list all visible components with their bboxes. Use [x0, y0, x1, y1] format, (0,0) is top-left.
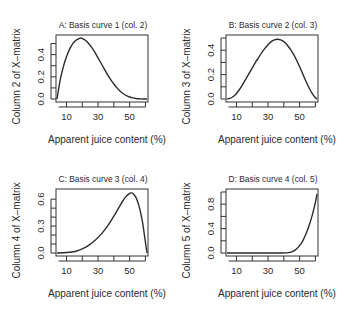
y-tick-label: 0.3	[35, 219, 46, 232]
y-tick-label: 0.2	[35, 70, 46, 83]
y-axis: 0.00.20.4	[205, 38, 226, 106]
y-tick-label: 0.0	[35, 92, 46, 105]
plot-frame	[56, 35, 148, 102]
basis-curve-line	[227, 194, 317, 253]
x-axis: 103050	[229, 256, 316, 276]
basis-curve-line	[57, 193, 147, 253]
panel-title: A: Basis curve 1 (col. 2)	[59, 20, 148, 30]
x-tick-label: 50	[294, 111, 305, 122]
y-axis-label: Column 3 of X–matrix	[181, 28, 192, 124]
y-tick-label: 0.0	[35, 246, 46, 259]
y-tick-label: 0.4	[205, 222, 216, 235]
y-axis: 0.00.20.4	[35, 44, 56, 106]
basis-curves-figure: A: Basis curve 1 (col. 2)1030500.00.20.4…	[0, 0, 343, 311]
panel-d: D: Basis curve 4 (col. 5)1030500.00.40.8…	[181, 174, 336, 299]
plot-frame	[226, 189, 318, 256]
panel-c: C: Basis curve 3 (col. 4)1030500.00.30.6…	[11, 174, 166, 299]
panel-title: B: Basis curve 2 (col. 3)	[229, 20, 318, 30]
y-tick-label: 0.0	[205, 246, 216, 259]
x-axis: 103050	[59, 102, 146, 122]
x-tick-label: 50	[124, 111, 135, 122]
x-tick-label: 10	[61, 111, 72, 122]
x-axis-label: Apparent juice content (%)	[48, 134, 166, 145]
plot-frame	[56, 189, 148, 256]
x-tick-label: 30	[93, 265, 104, 276]
x-tick-label: 30	[93, 111, 104, 122]
panel-title: C: Basis curve 3 (col. 4)	[59, 174, 148, 184]
y-axis-label: Column 5 of X–matrix	[181, 182, 192, 278]
x-axis: 103050	[229, 102, 316, 122]
y-tick-label: 0.8	[205, 198, 216, 211]
y-tick-label: 0.6	[35, 193, 46, 206]
y-tick-label: 0.0	[205, 92, 216, 105]
panel-b: B: Basis curve 2 (col. 3)1030500.00.20.4…	[181, 20, 336, 145]
x-tick-label: 10	[231, 111, 242, 122]
y-axis-label: Column 2 of X–matrix	[11, 28, 22, 124]
x-axis: 103050	[59, 256, 146, 276]
panel-a: A: Basis curve 1 (col. 2)1030500.00.20.4…	[11, 20, 166, 145]
x-tick-label: 10	[61, 265, 72, 276]
panel-title: D: Basis curve 4 (col. 5)	[229, 174, 318, 184]
y-tick-label: 0.2	[205, 68, 216, 81]
figure-canvas: A: Basis curve 1 (col. 2)1030500.00.20.4…	[0, 0, 343, 311]
y-tick-label: 0.4	[35, 48, 46, 61]
x-tick-label: 50	[124, 265, 135, 276]
x-axis-label: Apparent juice content (%)	[48, 288, 166, 299]
y-axis-label: Column 4 of X–matrix	[11, 182, 22, 278]
plot-frame	[226, 35, 318, 102]
x-tick-label: 50	[294, 265, 305, 276]
x-tick-label: 10	[231, 265, 242, 276]
y-axis: 0.00.30.6	[35, 193, 56, 260]
x-axis-label: Apparent juice content (%)	[218, 134, 336, 145]
basis-curve-line	[57, 38, 147, 99]
y-axis: 0.00.40.8	[205, 192, 226, 260]
basis-curve-line	[227, 39, 317, 99]
x-tick-label: 30	[263, 111, 274, 122]
x-tick-label: 30	[263, 265, 274, 276]
x-axis-label: Apparent juice content (%)	[218, 288, 336, 299]
y-tick-label: 0.4	[205, 44, 216, 57]
